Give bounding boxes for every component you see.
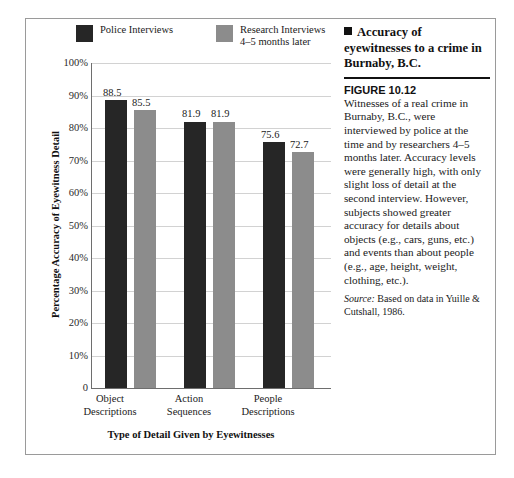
bar-object-research <box>134 110 156 388</box>
caption-panel: Accuracy of eyewitnesses to a crime in B… <box>344 25 490 445</box>
y-tick-90: 90% <box>44 90 88 101</box>
y-tick-60: 60% <box>44 187 88 198</box>
bar-value-action-police: 81.9 <box>182 108 200 119</box>
caption-source-word: Source: <box>344 293 375 304</box>
y-tick-70: 70% <box>44 155 88 166</box>
legend-item-police-interviews: Police Interviews <box>76 24 173 42</box>
y-tick-100: 100% <box>44 57 88 68</box>
x-axis-title: Type of Detail Given by Eyewitnesses <box>46 429 336 440</box>
figure-number: FIGURE 10.12 <box>344 84 490 96</box>
gridline-90 <box>92 96 331 97</box>
x-category-people-line2: Descriptions <box>220 406 316 419</box>
square-bullet-icon <box>344 27 352 35</box>
y-tick-0: 0 <box>44 382 88 393</box>
legend-swatch-research <box>216 25 233 42</box>
y-tick-40: 40% <box>44 252 88 263</box>
y-tick-50: 50% <box>44 220 88 231</box>
x-axis-line <box>91 388 331 389</box>
legend-label-police: Police Interviews <box>100 24 173 36</box>
y-axis-tick-labels: 100% 90% 80% 70% 60% 50% 40% 30% 20% 10%… <box>40 63 88 389</box>
y-tick-10: 10% <box>44 350 88 361</box>
caption-divider <box>344 77 490 79</box>
x-category-people: People Descriptions <box>220 393 316 418</box>
bar-value-action-research: 81.9 <box>211 108 229 119</box>
x-category-people-line1: People <box>220 393 316 406</box>
bar-object-police <box>105 100 127 388</box>
bar-value-people-research: 72.7 <box>290 139 308 150</box>
bar-value-object-research: 85.5 <box>132 97 150 108</box>
gridline-100 <box>92 63 331 64</box>
bar-people-police <box>263 142 285 388</box>
figure-frame: Police Interviews Research Interviews 4–… <box>25 18 496 455</box>
y-tick-20: 20% <box>44 317 88 328</box>
caption-source: Source: Based on data in Yuille & Cutsha… <box>344 293 490 318</box>
caption-body: Witnesses of a real crime in Burnaby, B.… <box>344 97 490 287</box>
bar-action-research <box>213 122 235 388</box>
y-tick-30: 30% <box>44 285 88 296</box>
bar-action-police <box>184 122 206 388</box>
legend-item-research-interviews: Research Interviews 4–5 months later <box>216 24 325 47</box>
caption-heading-text: Accuracy of eyewitnesses to a crime in B… <box>344 25 482 70</box>
bar-value-people-police: 75.6 <box>261 129 279 140</box>
caption-heading: Accuracy of eyewitnesses to a crime in B… <box>344 25 490 72</box>
y-tick-80: 80% <box>44 122 88 133</box>
legend-swatch-police <box>76 25 93 42</box>
chart-legend: Police Interviews Research Interviews 4–… <box>76 24 334 58</box>
legend-label-research: Research Interviews 4–5 months later <box>240 24 325 47</box>
chart-panel: Police Interviews Research Interviews 4–… <box>26 19 336 454</box>
gridline-80 <box>92 128 331 129</box>
bar-value-object-police: 88.5 <box>103 87 121 98</box>
plot-area: 88.5 85.5 81.9 81.9 75.6 72.7 <box>92 63 331 388</box>
bar-people-research <box>292 152 314 388</box>
